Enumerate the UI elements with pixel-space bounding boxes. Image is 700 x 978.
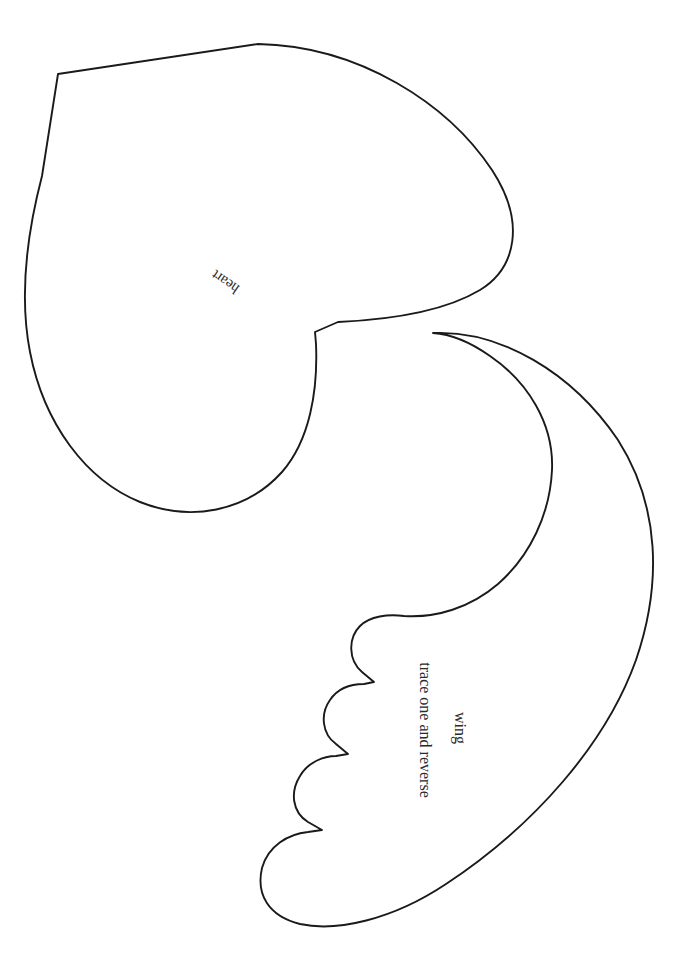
pattern-drawing-canvas: heart wing trace one and reverse <box>0 0 700 978</box>
wing-instruction-label: trace one and reverse <box>417 662 434 797</box>
wing-label: wing <box>451 712 469 744</box>
template-sheet: heart wing trace one and reverse <box>0 0 700 978</box>
